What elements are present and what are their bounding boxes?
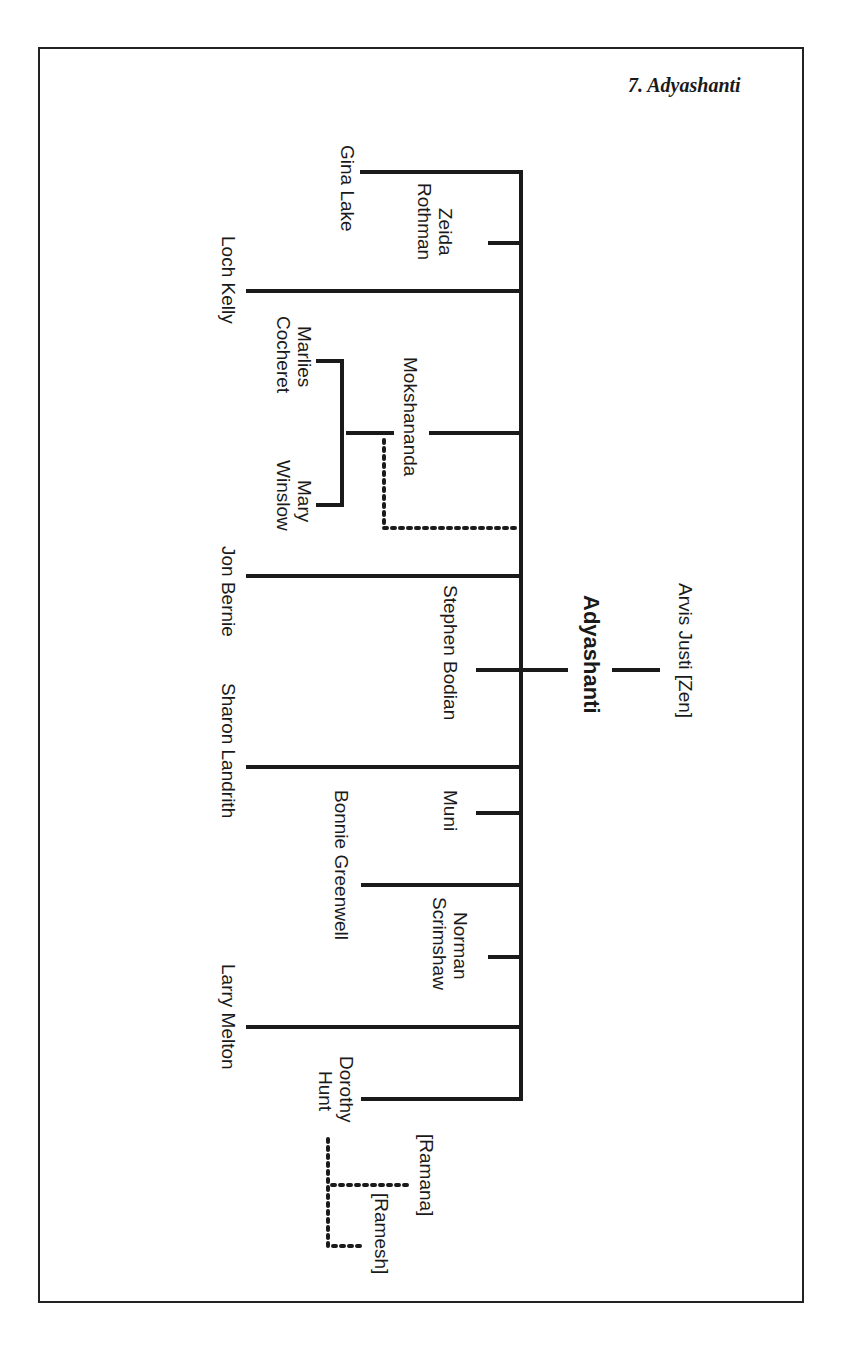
bracket-marlies-mary xyxy=(316,361,342,505)
dotted-link-ramesh xyxy=(328,1139,362,1246)
label-jon-bernie: Jon Bernie xyxy=(218,546,239,637)
label-loch-kelly: Loch Kelly xyxy=(218,236,239,324)
label-zeida-rothman-line2: Rothman xyxy=(414,183,435,260)
label-dorothy-hunt-line2: Hunt xyxy=(315,1071,336,1111)
label-stephen-bodian: Stephen Bodian xyxy=(440,585,461,720)
label-bonnie-greenwell: Bonnie Greenwell xyxy=(331,790,352,940)
label-norman-scrimshaw-line2: Scrimshaw xyxy=(429,897,450,990)
label-muni: Muni xyxy=(440,790,461,831)
label-mary-winslow-line1: Mary xyxy=(294,480,315,522)
label-ramesh: [Ramesh] xyxy=(371,1193,392,1274)
label-norman-scrimshaw-line1: Norman xyxy=(450,912,471,980)
label-arvis-justi: Arvis Justi [Zen] xyxy=(675,583,696,718)
label-root-adyashanti: Adyashanti xyxy=(579,595,603,714)
label-zeida-rothman-line1: Zeida xyxy=(435,208,456,256)
label-mokshananda: Mokshananda xyxy=(400,357,421,476)
label-ramana: [Ramana] xyxy=(416,1134,437,1216)
label-mary-winslow-line2: Winslow xyxy=(273,460,294,531)
label-marlies-cocheret-line2: Cocheret xyxy=(273,316,294,393)
label-larry-melton: Larry Melton xyxy=(218,964,239,1070)
label-gina-lake: Gina Lake xyxy=(337,145,358,232)
label-sharon-landrith: Sharon Landrith xyxy=(218,683,239,818)
label-marlies-cocheret-line1: Marlies xyxy=(294,326,315,387)
label-dorothy-hunt-line1: Dorothy xyxy=(336,1056,357,1123)
